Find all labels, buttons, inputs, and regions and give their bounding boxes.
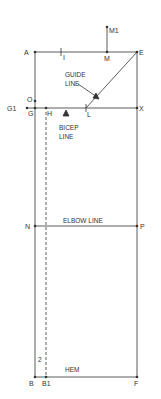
label-E: E (139, 49, 144, 56)
point-F (136, 376, 139, 379)
label-P: P (140, 223, 145, 230)
point-H (45, 107, 48, 110)
label-M: M (104, 55, 110, 62)
guide-line-label-2: LINE (65, 80, 80, 87)
guide-line (86, 52, 137, 108)
label-L: L (87, 111, 91, 118)
label-M1: M1 (109, 27, 119, 34)
guide-line-label-1: GUIDE (65, 71, 86, 78)
point-G1 (26, 107, 29, 110)
point-P (136, 225, 139, 228)
hem-label: HEM (65, 366, 79, 373)
guide-arrow-icon (93, 93, 99, 99)
label-B1: B1 (42, 380, 51, 387)
bicep-arrow-icon (63, 110, 69, 116)
point-B (34, 376, 37, 379)
point-G (34, 107, 37, 110)
label-G1: G1 (7, 105, 16, 112)
bicep-line-label-1: BICEP (59, 124, 79, 131)
point-M1 (106, 26, 109, 29)
bicep-line-label-2: LINE (59, 133, 74, 140)
point-X (136, 107, 139, 110)
point-O (34, 100, 37, 103)
label-I: I (63, 54, 65, 61)
label-A: A (24, 49, 29, 56)
measure-2-label: 2 (38, 356, 42, 363)
elbow-line-label: ELBOW LINE (63, 217, 103, 224)
label-F: F (134, 380, 138, 387)
point-A (34, 51, 37, 54)
point-M (106, 51, 109, 54)
label-G: G (28, 110, 33, 117)
point-E (136, 51, 139, 54)
label-N: N (25, 223, 30, 230)
point-N (34, 225, 37, 228)
label-O: O (27, 96, 33, 103)
label-H: H (47, 110, 52, 117)
label-X: X (139, 105, 144, 112)
label-B: B (29, 380, 34, 387)
sleeve-draft-diagram: A I M M1 E O G1 G H L X N P B B1 F GUIDE… (0, 0, 161, 399)
point-B1 (45, 376, 48, 379)
